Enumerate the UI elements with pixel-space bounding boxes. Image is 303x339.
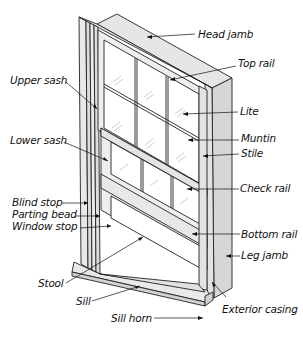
label-bottom-rail: Bottom rail: [241, 229, 297, 240]
label-top-rail: Top rail: [238, 58, 275, 69]
label-head-jamb: Head jamb: [198, 29, 253, 40]
label-parting-bead: Parting bead: [12, 209, 77, 220]
label-lite: Lite: [240, 106, 259, 117]
label-exterior-casing: Exterior casing: [222, 304, 298, 315]
leg-jamb-shape: [212, 78, 232, 298]
label-muntin: Muntin: [241, 133, 276, 144]
label-stool: Stool: [38, 278, 64, 289]
label-stile: Stile: [241, 148, 263, 159]
label-blind-stop: Blind stop: [12, 197, 62, 208]
label-sill: Sill: [76, 296, 91, 307]
label-sill-horn: Sill horn: [111, 313, 152, 324]
label-window-stop: Window stop: [12, 221, 77, 232]
label-upper-sash: Upper sash: [10, 75, 67, 86]
label-check-rail: Check rail: [240, 183, 290, 194]
label-lower-sash: Lower sash: [10, 135, 67, 146]
window-parts-diagram: Head jamb Top rail Upper sash Lite Munti…: [0, 0, 303, 339]
label-leg-jamb: Leg jamb: [241, 250, 288, 261]
